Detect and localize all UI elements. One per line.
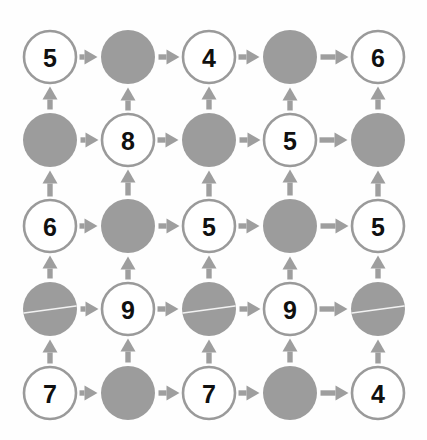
node-circle-open bbox=[264, 283, 316, 335]
edge-arrow-vertical bbox=[43, 87, 58, 110]
edge-arrow-horizontal bbox=[321, 386, 349, 401]
edge-arrow-vertical bbox=[43, 340, 58, 364]
edge-arrow-vertical bbox=[121, 339, 136, 363]
edge-arrow-horizontal bbox=[81, 302, 99, 317]
node-r5c3[interactable]: 7 bbox=[183, 367, 235, 419]
edge-arrow-vertical bbox=[121, 88, 136, 111]
node-circle-open bbox=[183, 367, 235, 419]
node-r4c1[interactable] bbox=[23, 282, 77, 336]
grid-graph-canvas: 5468565599774 bbox=[0, 0, 427, 440]
node-r2c2[interactable]: 8 bbox=[102, 114, 154, 166]
edge-arrow-horizontal bbox=[159, 50, 180, 65]
node-r3c3[interactable]: 5 bbox=[183, 200, 235, 252]
node-r3c1[interactable]: 6 bbox=[24, 200, 76, 252]
node-circle-open bbox=[352, 31, 404, 83]
node-circle-open bbox=[183, 31, 235, 83]
edge-arrow-vertical bbox=[202, 256, 217, 279]
edge-arrow-vertical bbox=[43, 256, 58, 279]
node-circle-open bbox=[264, 114, 316, 166]
node-r1c2[interactable] bbox=[101, 30, 155, 84]
node-r1c1[interactable]: 5 bbox=[24, 31, 76, 83]
node-circle-filled bbox=[101, 366, 155, 420]
edge-arrow-horizontal bbox=[159, 219, 180, 234]
edge-arrow-vertical bbox=[371, 340, 386, 364]
node-r2c1[interactable] bbox=[23, 113, 77, 167]
node-circle-filled bbox=[182, 113, 236, 167]
node-circle-filled bbox=[263, 199, 317, 253]
edge-arrow-vertical bbox=[121, 257, 136, 280]
edge-arrow-horizontal bbox=[321, 219, 349, 234]
node-circle-open bbox=[24, 200, 76, 252]
node-r4c4[interactable]: 9 bbox=[264, 283, 316, 335]
edge-arrow-horizontal bbox=[80, 50, 98, 65]
node-r5c1[interactable]: 7 bbox=[24, 367, 76, 419]
node-circle-filled bbox=[351, 113, 405, 167]
edge-arrow-horizontal bbox=[320, 133, 348, 148]
node-circle-open bbox=[24, 367, 76, 419]
node-r3c5[interactable]: 5 bbox=[352, 200, 404, 252]
node-circle-open bbox=[352, 200, 404, 252]
node-r1c3[interactable]: 4 bbox=[183, 31, 235, 83]
edge-arrow-horizontal bbox=[239, 386, 260, 401]
edge-arrow-vertical bbox=[371, 171, 386, 197]
node-r1c4[interactable] bbox=[263, 30, 317, 84]
node-r2c5[interactable] bbox=[351, 113, 405, 167]
edge-arrow-vertical bbox=[283, 339, 298, 363]
node-r4c5[interactable] bbox=[351, 282, 405, 336]
node-r5c4[interactable] bbox=[263, 366, 317, 420]
edge-arrow-vertical bbox=[202, 340, 217, 364]
node-r4c2[interactable]: 9 bbox=[102, 283, 154, 335]
node-r4c3[interactable] bbox=[182, 282, 236, 336]
edge-arrow-horizontal bbox=[239, 219, 260, 234]
node-circle-open bbox=[352, 367, 404, 419]
node-r3c2[interactable] bbox=[101, 199, 155, 253]
node-circle-open bbox=[102, 283, 154, 335]
edge-arrow-horizontal bbox=[321, 50, 349, 65]
edge-arrow-vertical bbox=[371, 256, 386, 279]
node-circle-filled bbox=[263, 366, 317, 420]
edge-arrow-vertical bbox=[121, 170, 136, 196]
node-circle-filled bbox=[23, 113, 77, 167]
node-circle-filled bbox=[101, 199, 155, 253]
node-circle-open bbox=[183, 200, 235, 252]
node-circle-open bbox=[102, 114, 154, 166]
edge-arrow-horizontal bbox=[80, 219, 98, 234]
edge-arrow-horizontal bbox=[158, 302, 179, 317]
edge-arrow-vertical bbox=[283, 257, 298, 280]
node-circle-filled bbox=[263, 30, 317, 84]
edge-arrow-horizontal bbox=[80, 386, 98, 401]
edge-arrow-horizontal bbox=[240, 133, 261, 148]
node-r5c5[interactable]: 4 bbox=[352, 367, 404, 419]
edge-arrow-vertical bbox=[202, 171, 217, 197]
edge-arrow-horizontal bbox=[239, 50, 260, 65]
node-r1c5[interactable]: 6 bbox=[352, 31, 404, 83]
node-circle-open bbox=[24, 31, 76, 83]
edge-arrow-vertical bbox=[43, 171, 58, 197]
edge-arrow-vertical bbox=[202, 87, 217, 110]
grid-graph-figure: 5468565599774 bbox=[0, 0, 427, 440]
node-r5c2[interactable] bbox=[101, 366, 155, 420]
edge-arrow-vertical bbox=[283, 170, 298, 196]
edge-arrow-horizontal bbox=[81, 133, 99, 148]
edge-arrow-vertical bbox=[371, 87, 386, 110]
node-r3c4[interactable] bbox=[263, 199, 317, 253]
edge-arrow-vertical bbox=[283, 88, 298, 111]
edge-arrow-horizontal bbox=[158, 133, 179, 148]
node-circle-filled bbox=[101, 30, 155, 84]
node-r2c3[interactable] bbox=[182, 113, 236, 167]
edge-arrow-horizontal bbox=[240, 302, 261, 317]
edge-arrow-horizontal bbox=[159, 386, 180, 401]
edge-arrow-horizontal bbox=[320, 302, 348, 317]
node-r2c4[interactable]: 5 bbox=[264, 114, 316, 166]
